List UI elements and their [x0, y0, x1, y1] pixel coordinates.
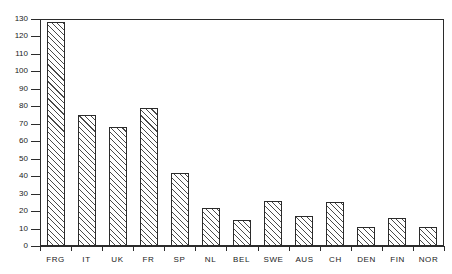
x-tick-mark	[133, 247, 134, 251]
y-tick-mark	[31, 229, 40, 230]
x-tick-mark	[102, 247, 103, 251]
y-tick-label: 100	[0, 67, 28, 75]
bar-it	[78, 115, 96, 246]
x-tick-mark	[289, 247, 290, 251]
x-axis-line	[40, 246, 445, 247]
y-tick-mark	[31, 36, 40, 37]
y-tick-label: 0	[0, 242, 28, 250]
y-tick-label: 120	[0, 32, 28, 40]
bar-fin	[388, 218, 406, 246]
y-tick-label: 50	[0, 155, 28, 163]
bar-uk	[109, 127, 127, 246]
y-tick-label: 70	[0, 120, 28, 128]
x-tick-label-nl: NL	[195, 255, 226, 264]
x-tick-label-fin: FIN	[382, 255, 413, 264]
x-tick-mark	[164, 247, 165, 251]
bar-frg	[47, 22, 65, 246]
x-tick-label-uk: UK	[102, 255, 133, 264]
y-tick-mark	[31, 176, 40, 177]
y-tick-label: 10	[0, 225, 28, 233]
x-tick-label-sp: SP	[164, 255, 195, 264]
bar-aus	[295, 216, 313, 246]
x-tick-label-fr: FR	[133, 255, 164, 264]
x-tick-label-it: IT	[71, 255, 102, 264]
y-tick-mark	[31, 19, 40, 20]
bar-swe	[264, 201, 282, 246]
y-tick-mark	[31, 124, 40, 125]
y-tick-mark	[31, 159, 40, 160]
bar-nor	[419, 227, 437, 246]
x-tick-label-frg: FRG	[40, 255, 71, 264]
y-tick-label: 20	[0, 207, 28, 215]
y-tick-label: 40	[0, 172, 28, 180]
y-tick-label: 110	[0, 50, 28, 58]
x-tick-mark	[413, 247, 414, 251]
x-tick-mark	[382, 247, 383, 251]
y-tick-mark	[31, 71, 40, 72]
y-tick-label: 90	[0, 85, 28, 93]
bar-chart: 0102030405060708090100110120130 FRGITUKF…	[0, 0, 452, 274]
y-tick-mark	[31, 246, 40, 247]
x-tick-label-bel: BEL	[226, 255, 257, 264]
y-tick-mark	[31, 106, 40, 107]
y-tick-mark	[31, 89, 40, 90]
y-tick-label: 80	[0, 102, 28, 110]
y-axis-line	[40, 19, 41, 247]
y-tick-mark	[31, 54, 40, 55]
x-tick-mark	[320, 247, 321, 251]
x-tick-mark	[444, 247, 445, 251]
x-tick-mark	[258, 247, 259, 251]
x-tick-mark	[71, 247, 72, 251]
x-tick-label-swe: SWE	[258, 255, 289, 264]
x-tick-mark	[195, 247, 196, 251]
x-tick-label-nor: NOR	[413, 255, 444, 264]
y-tick-label: 30	[0, 190, 28, 198]
x-tick-label-ch: CH	[320, 255, 351, 264]
y-tick-mark	[31, 141, 40, 142]
bar-den	[357, 227, 375, 246]
y-tick-mark	[31, 211, 40, 212]
x-tick-label-aus: AUS	[289, 255, 320, 264]
y-tick-label: 130	[0, 15, 28, 23]
y-tick-label: 60	[0, 137, 28, 145]
bar-sp	[171, 173, 189, 246]
x-tick-mark	[40, 247, 41, 251]
plot-area	[40, 19, 444, 246]
bar-ch	[326, 202, 344, 246]
x-tick-mark	[226, 247, 227, 251]
x-tick-mark	[351, 247, 352, 251]
bar-nl	[202, 208, 220, 246]
bar-fr	[140, 108, 158, 246]
y-tick-mark	[31, 194, 40, 195]
bar-bel	[233, 220, 251, 246]
x-tick-label-den: DEN	[351, 255, 382, 264]
